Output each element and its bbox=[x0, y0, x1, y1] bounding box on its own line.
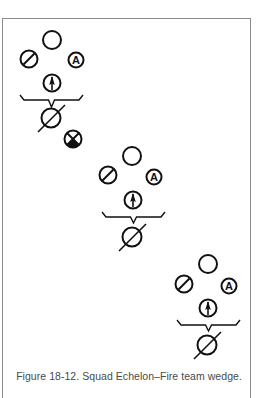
grenadier-icon bbox=[100, 167, 117, 184]
fire-team-1: A bbox=[20, 31, 84, 149]
fire-team-3: A bbox=[176, 255, 241, 359]
squad-leader-icon bbox=[194, 332, 221, 359]
automatic-rifleman-icon: A bbox=[69, 53, 84, 68]
rifleman-icon bbox=[43, 31, 61, 49]
squad-element-icon bbox=[63, 131, 83, 150]
squad-leader-icon bbox=[38, 105, 65, 132]
rifleman-icon bbox=[123, 147, 141, 165]
team-leader-icon bbox=[44, 75, 61, 92]
svg-text:A: A bbox=[225, 280, 233, 292]
team-leader-icon bbox=[200, 300, 217, 317]
squad-leader-icon bbox=[119, 224, 146, 251]
brace-icon bbox=[20, 95, 83, 107]
svg-text:A: A bbox=[72, 54, 80, 66]
grenadier-icon bbox=[176, 276, 193, 293]
brace-icon bbox=[102, 212, 165, 223]
rifleman-icon bbox=[199, 255, 217, 273]
fire-team-2: A bbox=[100, 147, 166, 251]
automatic-rifleman-icon: A bbox=[222, 279, 237, 294]
figure-caption: Figure 18-12. Squad Echelon–Fire team we… bbox=[0, 370, 258, 382]
grenadier-icon bbox=[21, 51, 38, 68]
automatic-rifleman-icon: A bbox=[147, 170, 162, 185]
brace-icon bbox=[177, 320, 240, 331]
team-leader-icon bbox=[125, 192, 142, 209]
svg-text:A: A bbox=[150, 171, 158, 183]
